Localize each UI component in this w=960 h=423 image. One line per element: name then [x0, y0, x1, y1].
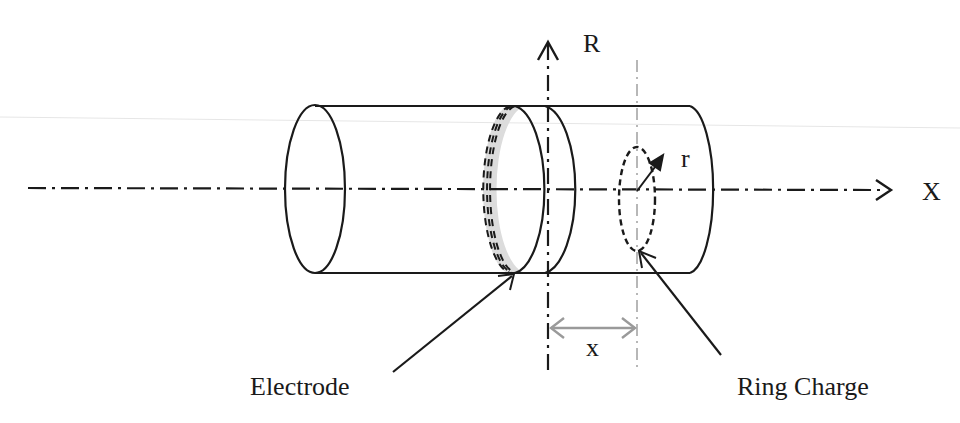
ring-charge-label: Ring Charge — [737, 372, 869, 401]
radius-label: r — [681, 144, 690, 173]
scan-artifact-line — [0, 117, 960, 128]
x-axis-line — [28, 188, 880, 190]
r-axis-label: R — [583, 29, 601, 58]
x-axis-label: X — [922, 177, 941, 206]
electrode-ring-charge-diagram: X R r x Electrode Ring Charge — [0, 0, 960, 423]
electrode-label: Electrode — [250, 372, 350, 401]
ring-charge-leader-line — [641, 253, 721, 355]
electrode-leader-line — [393, 276, 512, 372]
distance-label: x — [586, 333, 599, 362]
